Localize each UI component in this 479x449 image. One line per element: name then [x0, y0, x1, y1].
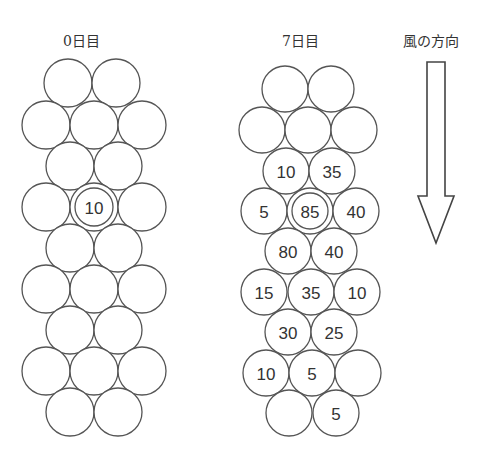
cell: 5 — [289, 350, 335, 396]
cell-value: 5 — [259, 203, 268, 222]
cell — [46, 306, 94, 354]
day0-grid: 10 — [22, 59, 166, 436]
cell — [70, 265, 118, 313]
cell-circle — [266, 390, 312, 436]
cell-value: 25 — [325, 324, 344, 343]
cell-circle — [285, 107, 331, 153]
cell — [118, 347, 166, 395]
cell — [22, 265, 70, 313]
cell: 10 — [263, 148, 309, 194]
cell-circle — [118, 101, 166, 149]
cell — [46, 142, 94, 190]
cell-value: 15 — [255, 284, 274, 303]
down-arrow-icon — [418, 62, 454, 243]
cell — [266, 390, 312, 436]
cell-value: 35 — [323, 163, 342, 182]
cell-circle — [308, 66, 354, 112]
cell: 25 — [311, 309, 357, 355]
diagram-canvas: 0日目 7日目 風の方向 10 103558540804015351030251… — [0, 0, 479, 449]
cell-circle — [118, 265, 166, 313]
initial-cell: 85 — [287, 188, 333, 234]
cell — [94, 388, 142, 436]
cell-circle — [118, 183, 166, 231]
cell: 35 — [309, 148, 355, 194]
cell-circle — [46, 388, 94, 436]
cell — [92, 59, 140, 107]
cell — [44, 59, 92, 107]
cell: 15 — [241, 269, 287, 315]
cell-value: 10 — [257, 365, 276, 384]
cell-circle — [46, 142, 94, 190]
cell-circle — [239, 107, 285, 153]
cell — [94, 224, 142, 272]
cell — [46, 388, 94, 436]
cell-circle — [70, 265, 118, 313]
cell-circle — [46, 224, 94, 272]
cell-circle — [70, 101, 118, 149]
cell — [94, 142, 142, 190]
cell-circle — [118, 347, 166, 395]
cell-value: 35 — [302, 284, 321, 303]
cell-circle — [22, 183, 70, 231]
cell-circle — [94, 224, 142, 272]
cell: 40 — [311, 228, 357, 274]
cell-circle — [22, 265, 70, 313]
cell — [70, 101, 118, 149]
cell-value: 85 — [301, 203, 320, 222]
cell-grids: 10 103558540804015351030251055 — [0, 0, 479, 449]
cell — [335, 350, 381, 396]
cell-circle — [94, 306, 142, 354]
cell-circle — [22, 347, 70, 395]
cell-circle — [262, 66, 308, 112]
cell: 10 — [334, 269, 380, 315]
day7-grid: 103558540804015351030251055 — [239, 66, 381, 436]
cell-circle — [22, 101, 70, 149]
cell: 5 — [313, 390, 359, 436]
cell — [262, 66, 308, 112]
cell: 80 — [265, 228, 311, 274]
cell-value: 40 — [347, 203, 366, 222]
cell-value: 80 — [279, 243, 298, 262]
cell: 35 — [288, 269, 334, 315]
cell — [22, 101, 70, 149]
cell — [94, 306, 142, 354]
cell: 5 — [241, 188, 287, 234]
cell — [118, 183, 166, 231]
cell — [118, 265, 166, 313]
cell — [46, 224, 94, 272]
cell-value: 10 — [85, 199, 104, 218]
cell-circle — [335, 350, 381, 396]
cell-value: 10 — [277, 163, 296, 182]
cell-value: 5 — [307, 365, 316, 384]
cell — [308, 66, 354, 112]
cell-circle — [46, 306, 94, 354]
cell — [22, 347, 70, 395]
cell — [331, 107, 377, 153]
cell — [285, 107, 331, 153]
cell-circle — [70, 347, 118, 395]
cell — [22, 183, 70, 231]
cell-circle — [44, 59, 92, 107]
cell-circle — [92, 59, 140, 107]
cell — [70, 347, 118, 395]
cell-circle — [94, 388, 142, 436]
cell-value: 5 — [331, 405, 340, 424]
initial-cell: 10 — [70, 183, 118, 231]
cell-value: 30 — [279, 324, 298, 343]
cell: 40 — [333, 188, 379, 234]
cell — [239, 107, 285, 153]
cell: 30 — [265, 309, 311, 355]
cell-circle — [331, 107, 377, 153]
cell-circle — [94, 142, 142, 190]
cell — [118, 101, 166, 149]
cell: 10 — [243, 350, 289, 396]
cell-value: 40 — [325, 243, 344, 262]
cell-value: 10 — [348, 284, 367, 303]
